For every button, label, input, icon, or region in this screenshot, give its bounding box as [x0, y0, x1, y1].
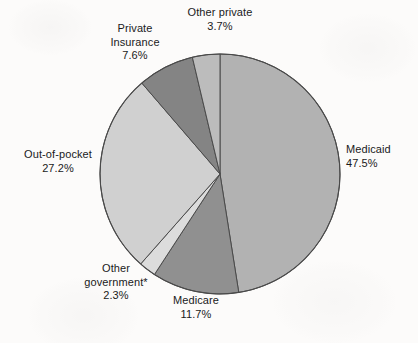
- pie-slice-medicaid: [220, 54, 340, 293]
- slice-label-other-private-name: Other private: [168, 6, 272, 20]
- slice-label-medicaid: Medicaid 47.5%: [346, 143, 418, 170]
- slice-label-private-insurance-name-line2: Insurance: [94, 36, 176, 50]
- pie-chart: Medicaid 47.5% Medicare 11.7% Other gove…: [0, 0, 418, 343]
- slice-label-other-government: Other government* 2.3%: [62, 262, 170, 303]
- slice-label-medicare-value: 11.7%: [152, 308, 240, 322]
- pie-chart-page: Medicaid 47.5% Medicare 11.7% Other gove…: [0, 0, 418, 343]
- slice-label-other-government-value: 2.3%: [62, 289, 170, 303]
- slice-label-out-of-pocket: Out-of-pocket 27.2%: [6, 148, 110, 175]
- slice-label-medicaid-value: 47.5%: [346, 157, 418, 171]
- slice-label-other-private: Other private 3.7%: [168, 6, 272, 33]
- slice-label-private-insurance: Private Insurance 7.6%: [94, 22, 176, 63]
- slice-label-other-private-value: 3.7%: [168, 20, 272, 34]
- slice-label-medicaid-name: Medicaid: [346, 143, 418, 157]
- slice-label-out-of-pocket-value: 27.2%: [6, 162, 110, 176]
- slice-label-out-of-pocket-name: Out-of-pocket: [6, 148, 110, 162]
- slice-label-other-government-name-line1: Other: [62, 262, 170, 276]
- slice-label-other-government-name-line2: government*: [62, 276, 170, 290]
- slice-label-private-insurance-name-line1: Private: [94, 22, 176, 36]
- slice-label-private-insurance-value: 7.6%: [94, 49, 176, 63]
